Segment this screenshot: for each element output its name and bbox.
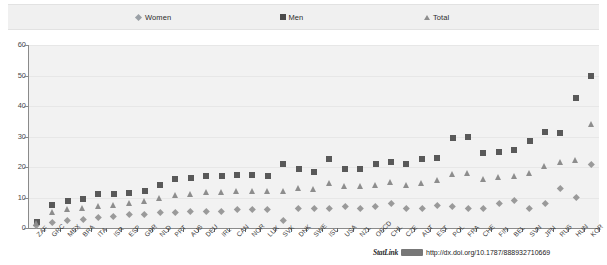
statlink-word: StatLink: [373, 248, 398, 257]
data-point-total-esp: [126, 200, 132, 206]
data-point-men-aus: [188, 175, 194, 181]
data-point-total-usa: [341, 183, 347, 189]
data-point-total-che: [480, 176, 486, 182]
y-axis-tick-mark: [24, 76, 28, 77]
gridline: [29, 137, 599, 138]
data-point-total-cze: [403, 182, 409, 188]
data-point-total-bra: [79, 205, 85, 211]
data-point-total-fin: [495, 174, 501, 180]
gridline: [29, 45, 599, 46]
data-point-men-grc: [49, 202, 55, 208]
data-point-total-dnk: [295, 185, 301, 191]
y-axis-line: [28, 45, 29, 229]
data-point-men-chl: [388, 159, 394, 165]
triangle-marker-icon: [424, 15, 430, 20]
data-point-total-aut: [418, 180, 424, 186]
data-point-total-nld: [156, 195, 162, 201]
y-axis-tick-mark: [24, 198, 28, 199]
data-point-total-kor: [588, 121, 594, 127]
chart-legend: Women Men Total: [8, 4, 599, 30]
data-point-men-svk: [280, 161, 286, 167]
data-point-men-dnk: [296, 166, 302, 172]
x-axis-line: [28, 228, 599, 229]
y-axis-tick-mark: [24, 106, 28, 107]
data-point-men-isl: [326, 156, 332, 162]
data-point-men-can: [234, 172, 240, 178]
data-point-men-nzl: [357, 166, 363, 172]
y-axis-tick-mark: [24, 45, 28, 46]
data-point-men-cze: [403, 161, 409, 167]
data-point-total-lux: [264, 188, 270, 194]
data-point-total-ita: [95, 203, 101, 209]
legend-label-women: Women: [145, 13, 171, 22]
legend-label-total: Total: [433, 13, 449, 22]
y-axis-tick-mark: [24, 137, 28, 138]
gridline: [29, 106, 599, 107]
statlink-url[interactable]: http://dx.doi.org/10.1787/888932710669: [426, 249, 550, 256]
data-point-men-usa: [342, 166, 348, 172]
data-point-total-rus: [557, 159, 563, 165]
y-axis-tick-label: 30: [4, 132, 26, 141]
y-axis-tick-label: 40: [4, 101, 26, 110]
data-point-total-bel: [511, 173, 517, 179]
diamond-marker-icon: [135, 13, 142, 20]
data-point-men-nor: [249, 172, 255, 178]
data-point-total-gbr: [141, 198, 147, 204]
data-point-men-ita: [95, 191, 101, 197]
data-point-total-oecd: [372, 182, 378, 188]
statlink[interactable]: StatLink http://dx.doi.org/10.1787/88893…: [373, 248, 550, 257]
data-point-men-rus: [557, 130, 563, 136]
data-point-men-pol: [450, 135, 456, 141]
data-point-men-kor: [588, 73, 594, 79]
legend-label-men: Men: [289, 13, 304, 22]
y-axis-tick-labels: 0102030405060: [0, 0, 26, 265]
data-point-men-esp: [126, 190, 132, 196]
data-point-men-bel: [511, 147, 517, 153]
data-point-total-pol: [449, 171, 455, 177]
data-point-total-svn: [526, 170, 532, 176]
data-point-total-nor: [249, 188, 255, 194]
data-point-men-che: [480, 150, 486, 156]
data-point-men-gbr: [142, 188, 148, 194]
legend-item-total[interactable]: Total: [424, 5, 449, 29]
data-point-men-aut: [419, 156, 425, 162]
data-point-men-nld: [157, 182, 163, 188]
data-point-men-oecd: [373, 161, 379, 167]
data-point-men-jpn: [542, 129, 548, 135]
data-point-total-aus: [187, 191, 193, 197]
data-point-total-chl: [387, 179, 393, 185]
data-point-men-irl: [219, 173, 225, 179]
data-point-total-fra: [464, 170, 470, 176]
data-point-total-isr: [110, 202, 116, 208]
data-point-men-svn: [527, 138, 533, 144]
legend-item-women[interactable]: Women: [136, 5, 171, 29]
y-axis-tick-label: 60: [4, 40, 26, 49]
data-point-men-fra: [465, 134, 471, 140]
square-marker-icon: [280, 14, 286, 20]
y-axis-tick-label: 20: [4, 162, 26, 171]
data-point-total-hun: [572, 157, 578, 163]
data-point-men-bra: [80, 196, 86, 202]
data-point-men-swe: [311, 169, 317, 175]
legend-item-men[interactable]: Men: [280, 5, 303, 29]
data-point-total-mex: [64, 206, 70, 212]
data-point-total-isl: [326, 180, 332, 186]
data-point-total-deu: [203, 189, 209, 195]
data-point-men-est: [434, 155, 440, 161]
data-point-total-jpn: [541, 163, 547, 169]
data-point-total-can: [233, 188, 239, 194]
data-point-men-fin: [496, 149, 502, 155]
data-point-men-isr: [111, 191, 117, 197]
gridline: [29, 76, 599, 77]
y-axis-tick-mark: [24, 228, 28, 229]
data-point-men-hun: [573, 95, 579, 101]
data-point-men-lux: [265, 173, 271, 179]
data-point-total-est: [434, 177, 440, 183]
chart-figure: Women Men Total 0102030405060 StatLink h…: [0, 0, 607, 265]
y-axis-tick-label: 50: [4, 71, 26, 80]
data-point-total-grc: [49, 209, 55, 215]
statlink-barcode-icon: [401, 249, 423, 256]
data-point-total-zaf: [33, 220, 39, 226]
data-point-men-prt: [172, 176, 178, 182]
data-point-men-mex: [65, 198, 71, 204]
